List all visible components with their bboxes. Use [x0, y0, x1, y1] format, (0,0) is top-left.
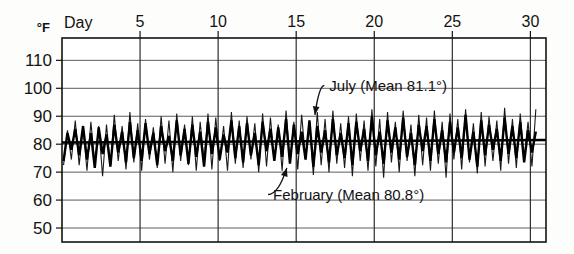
temperature-chart-figure: 506070809010011051015202530Day°F July (M… — [0, 0, 574, 254]
xtick-label: 15 — [287, 13, 305, 30]
ytick-label: 80 — [33, 135, 52, 154]
y-axis-title: °F — [37, 20, 50, 35]
ytick-label: 60 — [33, 191, 52, 210]
xtick-label: 30 — [521, 13, 539, 30]
xtick-label: 5 — [136, 13, 145, 30]
ytick-label: 70 — [33, 163, 52, 182]
ytick-label: 50 — [33, 219, 52, 238]
chart-canvas: 506070809010011051015202530Day°F July (M… — [0, 0, 574, 254]
x-axis-title: Day — [64, 14, 92, 31]
ytick-label: 100 — [24, 79, 52, 98]
xtick-label: 10 — [209, 13, 227, 30]
annotation-label-february: February (Mean 80.8°) — [273, 186, 424, 203]
xtick-label: 25 — [443, 13, 461, 30]
xtick-label: 20 — [365, 13, 383, 30]
annotation-label-july: July (Mean 81.1°) — [329, 77, 447, 94]
ytick-label: 110 — [25, 51, 52, 70]
ytick-label: 90 — [33, 107, 52, 126]
